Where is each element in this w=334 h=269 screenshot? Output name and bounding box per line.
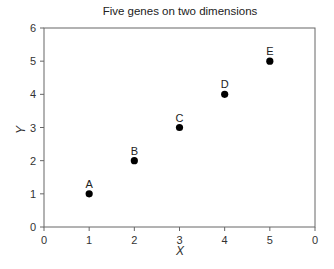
point-label-b: B <box>131 145 138 157</box>
data-point-d <box>221 91 228 98</box>
point-label-c: C <box>176 112 184 124</box>
y-tick-label: 5 <box>30 55 36 67</box>
y-tick-label: 4 <box>30 88 36 100</box>
y-axis-label: Y <box>14 125 28 134</box>
x-tick-label: 0 <box>41 234 47 246</box>
x-tick-label: 1 <box>86 234 92 246</box>
x-tick-label: 5 <box>267 234 273 246</box>
data-point-a <box>86 190 93 197</box>
data-point-b <box>131 157 138 164</box>
chart-title: Five genes on two dimensions <box>103 5 258 17</box>
y-tick-label: 2 <box>30 155 36 167</box>
x-tick-label: 2 <box>131 234 137 246</box>
y-tick-label: 3 <box>30 122 36 134</box>
y-tick-label: 0 <box>30 221 36 233</box>
point-label-d: D <box>221 78 229 90</box>
data-point-c <box>176 124 183 131</box>
x-axis-label: X <box>175 244 185 258</box>
y-tick-label: 1 <box>30 188 36 200</box>
x-tick-label: 4 <box>222 234 228 246</box>
point-label-a: A <box>85 178 93 190</box>
y-axis-ticks: 0123456 <box>30 22 44 233</box>
y-tick-label: 6 <box>30 22 36 34</box>
data-point-e <box>266 58 273 65</box>
data-points: ABCDE <box>85 45 273 197</box>
point-label-e: E <box>266 45 273 57</box>
scatter-chart: Five genes on two dimensions 0123450 012… <box>0 0 334 269</box>
x-tick-label: 0 <box>312 234 318 246</box>
